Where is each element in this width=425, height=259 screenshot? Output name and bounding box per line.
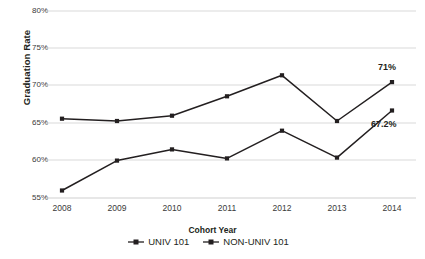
- data-point-marker: [60, 188, 64, 192]
- legend-item-nonuniv-101[interactable]: NON-UNIV 101: [203, 236, 288, 247]
- data-point-marker: [115, 159, 119, 163]
- data-point-marker: [170, 114, 174, 118]
- plot-area: [0, 0, 425, 259]
- data-point-marker: [390, 80, 394, 84]
- x-axis-title: Cohort Year: [0, 225, 425, 235]
- legend-label-univ-101: UNIV 101: [148, 236, 189, 247]
- data-point-marker: [280, 129, 284, 133]
- legend-label-nonuniv-101: NON-UNIV 101: [223, 236, 288, 247]
- x-tick-2008: 2008: [42, 203, 82, 213]
- data-label-nonuniv-2014: 67.2%: [371, 119, 397, 129]
- x-tick-2009: 2009: [97, 203, 137, 213]
- series-univ-101: [60, 73, 394, 123]
- data-point-marker: [225, 156, 229, 160]
- data-point-marker: [225, 94, 229, 98]
- x-tick-2011: 2011: [207, 203, 247, 213]
- data-point-marker: [280, 73, 284, 77]
- data-point-marker: [115, 119, 119, 123]
- x-tick-2014: 2014: [372, 203, 412, 213]
- legend-marker-icon: [128, 237, 144, 247]
- data-label-univ-2014: 71%: [378, 62, 396, 72]
- x-tick-2013: 2013: [317, 203, 357, 213]
- data-point-marker: [390, 108, 394, 112]
- legend-marker-icon: [203, 237, 219, 247]
- graduation-rate-line-chart: Graduation Rate 80% 75% 70% 65% 60% 55% …: [0, 0, 425, 259]
- data-point-marker: [335, 156, 339, 160]
- data-series-layer: [60, 73, 394, 192]
- x-tick-2012: 2012: [262, 203, 302, 213]
- x-tick-2010: 2010: [152, 203, 192, 213]
- data-point-marker: [335, 119, 339, 123]
- chart-legend: UNIV 101 NON-UNIV 101: [0, 236, 425, 247]
- legend-item-univ-101[interactable]: UNIV 101: [128, 236, 189, 247]
- data-point-marker: [170, 147, 174, 151]
- data-point-marker: [60, 117, 64, 121]
